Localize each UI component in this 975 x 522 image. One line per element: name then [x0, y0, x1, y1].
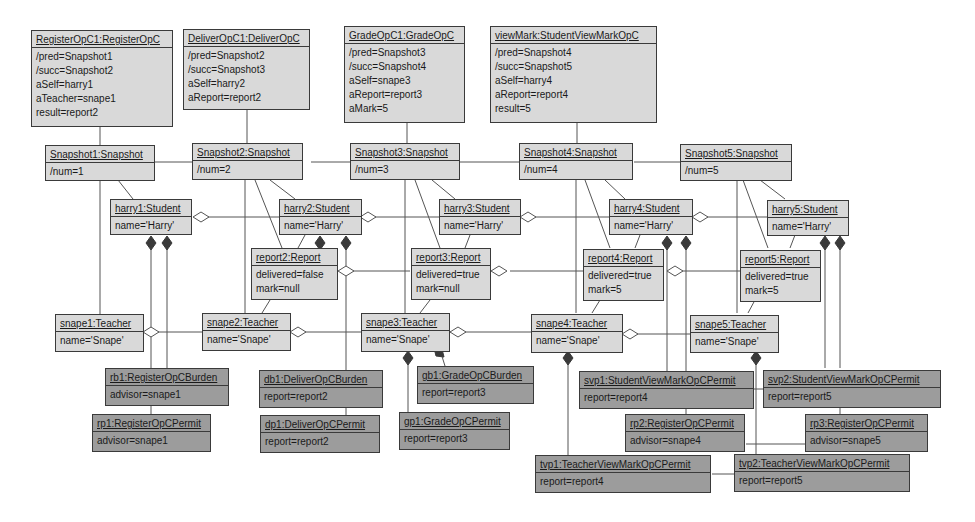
object-attribute: report=report5	[768, 390, 936, 404]
report-object[interactable]: report2:Report delivered=false mark=null	[251, 248, 338, 300]
object-attribute: name='Snape'	[695, 335, 774, 349]
aggregation-diamond-icon	[450, 327, 466, 337]
student-object[interactable]: harry4:Student name='Harry'	[609, 199, 693, 235]
snapshot-object[interactable]: Snapshot5:Snapshot /num=5	[680, 144, 792, 181]
permit-object[interactable]: rp2:RegisterOpCPermit advisor=snape4	[625, 414, 745, 452]
operation-object[interactable]: GradeOpC1:GradeOpC /pred=Snapshot3 /succ…	[344, 26, 465, 123]
permit-object[interactable]: gp1:GradeOpCPermit report=report3	[399, 412, 510, 450]
object-attribute: aSelf=harry2	[188, 77, 305, 91]
object-attribute: /succ=Snapshot4	[349, 60, 460, 74]
composition-diamond-icon	[820, 236, 830, 250]
teacher-object[interactable]: snape5:Teacher name='Snape'	[690, 315, 779, 353]
composition-diamond-icon	[563, 351, 573, 365]
report-object[interactable]: report3:Report delivered=true mark=null	[411, 248, 491, 300]
object-title: report5:Report	[741, 251, 820, 268]
student-object[interactable]: harry3:Student name='Harry'	[439, 199, 521, 235]
aggregation-diamond-icon	[360, 212, 376, 222]
teacher-object[interactable]: snape2:Teacher name='Snape'	[202, 313, 291, 351]
object-attribute: /num=1	[50, 165, 150, 179]
object-attribute: /num=2	[197, 163, 298, 177]
object-attribute: delivered=true	[416, 268, 486, 282]
composition-diamond-icon	[681, 236, 691, 250]
object-attribute: /pred=Snapshot3	[349, 46, 460, 60]
object-attribute: mark=null	[416, 282, 486, 296]
object-attribute: aSelf=harry4	[495, 74, 652, 88]
snapshot-object[interactable]: Snapshot1:Snapshot /num=1	[45, 145, 155, 181]
permit-object[interactable]: gb1:GradeOpCBurden report=report3	[417, 366, 534, 404]
object-attribute: advisor=snape1	[110, 388, 224, 402]
operation-object[interactable]: RegisterOpC1:RegisterOpC /pred=Snapshot1…	[31, 30, 173, 127]
object-attribute: aReport=report3	[349, 88, 460, 102]
object-attribute: advisor=snape4	[630, 434, 740, 448]
composition-diamond-icon	[662, 236, 672, 250]
object-title: tvp2:TeacherViewMarkOpCPermit	[735, 455, 909, 472]
student-object[interactable]: harry1:Student name='Harry'	[110, 199, 192, 235]
object-title: svp1:StudentViewMarkOpCPermit	[580, 372, 753, 389]
operation-object[interactable]: viewMark:StudentViewMarkOpC /pred=Snapsh…	[490, 26, 657, 123]
object-attribute: delivered=true	[588, 269, 659, 283]
permit-object[interactable]: svp1:StudentViewMarkOpCPermit report=rep…	[579, 371, 754, 409]
object-attribute: /num=3	[355, 163, 455, 177]
snapshot-object[interactable]: Snapshot4:Snapshot /num=4	[519, 143, 633, 180]
composition-diamond-icon	[835, 236, 845, 250]
object-attribute: name='Snape'	[536, 334, 618, 348]
object-attribute: report=report5	[739, 474, 905, 488]
object-attribute: name='Harry'	[772, 220, 844, 234]
aggregation-diamond-icon	[143, 327, 159, 337]
student-object[interactable]: harry2:Student name='Harry'	[279, 199, 362, 235]
object-title: rb1:RegisterOpCBurden	[106, 369, 228, 386]
student-object[interactable]: harry5:Student name='Harry'	[767, 200, 849, 236]
object-title: Snapshot2:Snapshot	[193, 144, 302, 161]
permit-object[interactable]: rp3:RegisterOpCPermit advisor=snape5	[805, 414, 928, 452]
object-title: tvp1:TeacherViewMarkOpCPermit	[536, 456, 710, 473]
permit-object[interactable]: rb1:RegisterOpCBurden advisor=snape1	[105, 368, 229, 406]
object-attribute: name='Snape'	[60, 334, 139, 348]
object-title: Snapshot5:Snapshot	[681, 145, 791, 162]
report-object[interactable]: report5:Report delivered=true mark=5	[740, 250, 821, 302]
object-title: GradeOpC1:GradeOpC	[345, 27, 464, 44]
object-attribute: result=report2	[36, 106, 168, 120]
report-object[interactable]: report4:Report delivered=true mark=5	[583, 249, 664, 301]
object-attribute: report=report2	[264, 390, 378, 404]
teacher-object[interactable]: snape4:Teacher name='Snape'	[531, 314, 623, 353]
object-title: snape2:Teacher	[203, 314, 290, 331]
object-title: snape1:Teacher	[56, 315, 143, 332]
object-diagram-canvas: RegisterOpC1:RegisterOpC /pred=Snapshot1…	[0, 0, 975, 522]
object-attribute: mark=5	[588, 283, 659, 297]
object-attribute: /succ=Snapshot2	[36, 64, 168, 78]
snapshot-object[interactable]: Snapshot3:Snapshot /num=3	[350, 143, 460, 180]
object-title: gp1:GradeOpCPermit	[400, 413, 509, 430]
object-attribute: delivered=true	[745, 270, 816, 284]
object-title: rp2:RegisterOpCPermit	[626, 415, 744, 432]
object-attribute: report=report3	[422, 386, 529, 400]
teacher-object[interactable]: snape3:Teacher name='Snape'	[361, 313, 450, 352]
object-attribute: /succ=Snapshot5	[495, 60, 652, 74]
object-title: Snapshot1:Snapshot	[46, 146, 154, 163]
permit-object[interactable]: tvp2:TeacherViewMarkOpCPermit report=rep…	[734, 454, 910, 492]
object-attribute: name='Harry'	[444, 219, 516, 233]
object-title: report2:Report	[252, 249, 337, 266]
object-title: Snapshot3:Snapshot	[351, 144, 459, 161]
object-attribute: aSelf=snape3	[349, 74, 460, 88]
composition-diamond-icon	[751, 351, 761, 365]
object-title: snape4:Teacher	[532, 315, 622, 332]
composition-diamond-icon	[403, 351, 413, 365]
permit-object[interactable]: db1:DeliverOpCBurden report=report2	[259, 370, 383, 408]
permit-object[interactable]: dp1:DeliverOpCPermit report=report2	[260, 415, 380, 453]
snapshot-object[interactable]: Snapshot2:Snapshot /num=2	[192, 143, 303, 180]
object-attribute: name='Harry'	[614, 219, 688, 233]
aggregation-diamond-icon	[692, 212, 708, 222]
object-attribute: result=5	[495, 102, 652, 116]
teacher-object[interactable]: snape1:Teacher name='Snape'	[55, 314, 144, 352]
permit-object[interactable]: tvp1:TeacherViewMarkOpCPermit report=rep…	[535, 455, 711, 493]
operation-object[interactable]: DeliverOpC1:DeliverOpC /pred=Snapshot2 /…	[183, 29, 310, 110]
aggregation-diamond-icon	[622, 329, 638, 339]
aggregation-diamond-icon	[193, 212, 209, 222]
object-attribute: /pred=Snapshot2	[188, 49, 305, 63]
object-attribute: aReport=report4	[495, 88, 652, 102]
object-attribute: report=report4	[540, 475, 706, 489]
object-attribute: /pred=Snapshot4	[495, 46, 652, 60]
object-title: db1:DeliverOpCBurden	[260, 371, 382, 388]
permit-object[interactable]: svp2:StudentViewMarkOpCPermit report=rep…	[763, 370, 941, 408]
permit-object[interactable]: rp1:RegisterOpCPermit advisor=snape1	[92, 414, 211, 452]
